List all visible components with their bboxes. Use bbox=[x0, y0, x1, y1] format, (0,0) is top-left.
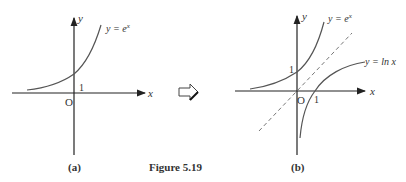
exp-curve bbox=[27, 25, 101, 90]
panel-b-label: (b) bbox=[291, 161, 304, 173]
panel-a-label: (a) bbox=[68, 161, 81, 173]
y-axis-label: y bbox=[302, 10, 307, 22]
origin-label: O bbox=[65, 96, 73, 108]
tick-x-label: 1 bbox=[314, 94, 319, 105]
transform-arrow-icon bbox=[179, 84, 198, 100]
panel-b-graph bbox=[235, 16, 365, 155]
x-axis-label: x bbox=[148, 87, 153, 99]
identity-line bbox=[259, 33, 352, 131]
figure-caption: Figure 5.19 bbox=[149, 161, 202, 173]
tick-y-label: 1 bbox=[289, 64, 294, 75]
figure-canvas bbox=[0, 0, 406, 182]
ln-curve-label: y = ln x bbox=[365, 56, 396, 67]
ln-curve bbox=[300, 62, 365, 138]
origin-label: O bbox=[297, 94, 305, 106]
curve-label: y = ex bbox=[106, 22, 130, 34]
exp-curve-label: y = ex bbox=[328, 12, 352, 24]
x-axis-label: x bbox=[370, 85, 375, 97]
exp-curve bbox=[250, 22, 324, 89]
y-axis-label: y bbox=[78, 12, 83, 24]
tick-label: 1 bbox=[79, 82, 84, 93]
